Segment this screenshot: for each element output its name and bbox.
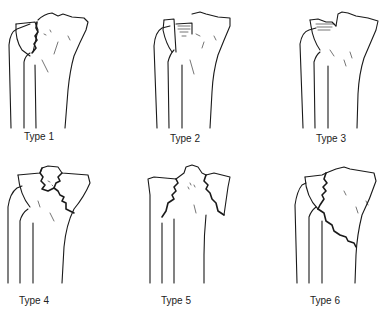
tibial-plateau-fracture-type-1-illustration	[0, 0, 130, 150]
panel-label: Type 2	[170, 133, 200, 144]
tibial-plateau-fracture-type-3-illustration	[260, 0, 383, 150]
panel-type-5: Type 5	[130, 155, 260, 311]
tibial-plateau-fracture-type-5-illustration	[130, 155, 260, 311]
panel-type-4: Type 4	[0, 155, 130, 311]
panel-type-2: Type 2	[130, 0, 260, 150]
panel-label: Type 1	[24, 131, 54, 142]
panel-label: Type 4	[19, 295, 49, 306]
panel-label: Type 6	[310, 295, 340, 306]
tibial-plateau-fracture-type-6-illustration	[260, 155, 383, 311]
panel-type-6: Type 6	[260, 155, 383, 311]
panel-label: Type 5	[161, 295, 191, 306]
tibial-plateau-fracture-type-4-illustration	[0, 155, 130, 311]
panel-type-1: Type 1	[0, 0, 130, 150]
panel-type-3: Type 3	[260, 0, 383, 150]
tibial-plateau-fracture-type-2-illustration	[130, 0, 260, 150]
panel-label: Type 3	[316, 133, 346, 144]
